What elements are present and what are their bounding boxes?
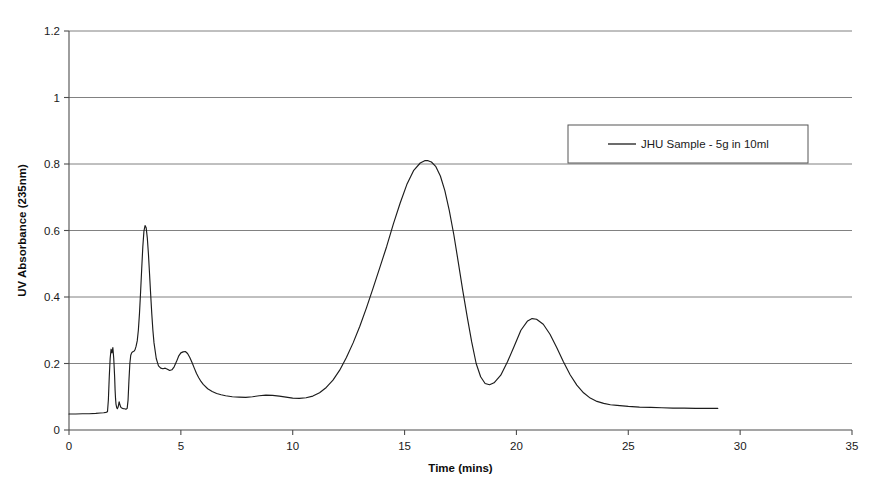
y-tick-label: 0.2 [44, 358, 60, 370]
x-tick-label: 15 [398, 440, 411, 452]
x-tick-label: 30 [734, 440, 747, 452]
y-axis-title: UV Absorbance (235nm) [16, 164, 28, 297]
data-series [69, 161, 718, 414]
y-tick-label: 1 [54, 92, 60, 104]
x-tick-label: 20 [510, 440, 523, 452]
x-tick-label: 25 [622, 440, 635, 452]
y-tick-label: 1.2 [44, 25, 60, 37]
y-tick-label: 0.8 [44, 158, 60, 170]
gridlines [69, 31, 852, 364]
series-line-0 [69, 161, 718, 414]
x-tick-label: 5 [178, 440, 184, 452]
x-axis-title: Time (mins) [428, 462, 492, 474]
y-tick-label: 0 [54, 424, 60, 436]
x-tick-label: 0 [66, 440, 72, 452]
y-tick-label: 0.4 [44, 291, 61, 303]
y-tick-label: 0.6 [44, 225, 60, 237]
chart-canvas: 00.20.40.60.811.2 05101520253035 JHU Sam… [0, 0, 882, 493]
legend-label: JHU Sample - 5g in 10ml [641, 138, 769, 150]
x-axis-ticks: 05101520253035 [66, 430, 859, 452]
x-tick-label: 10 [286, 440, 299, 452]
chart-legend[interactable]: JHU Sample - 5g in 10ml [568, 125, 808, 163]
chromatogram-chart: 00.20.40.60.811.2 05101520253035 JHU Sam… [0, 0, 882, 493]
x-tick-label: 35 [846, 440, 859, 452]
y-axis-ticks: 00.20.40.60.811.2 [44, 25, 69, 436]
